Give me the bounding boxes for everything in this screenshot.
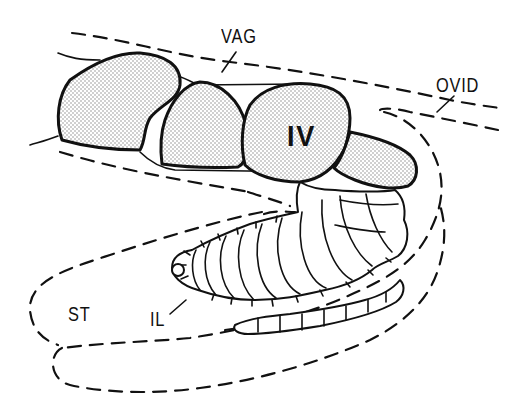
diagram-drawing	[0, 0, 509, 418]
label-vag: VAG	[221, 25, 257, 46]
label-iv: IV	[287, 121, 316, 151]
larva	[172, 182, 407, 306]
label-ovid: OVID	[436, 74, 479, 95]
label-st: ST	[68, 303, 90, 324]
anatomical-diagram: VAG OVID IV ST IL	[0, 0, 509, 418]
egg-3	[242, 84, 416, 188]
il-leader	[170, 300, 186, 314]
label-il: IL	[150, 308, 165, 329]
